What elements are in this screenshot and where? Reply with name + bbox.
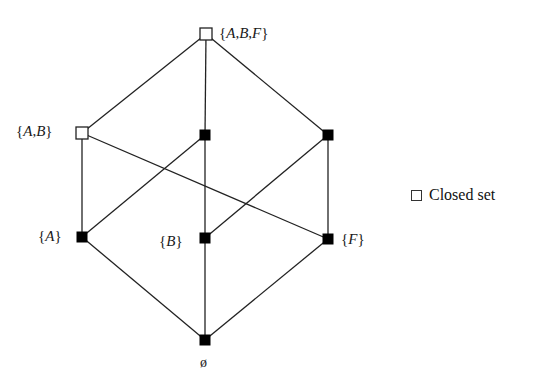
edge-abf-ab — [82, 34, 206, 133]
label-b: {B} — [159, 234, 183, 249]
label-empty: ø — [200, 356, 207, 370]
node-a — [77, 232, 88, 243]
node-f — [323, 234, 334, 245]
node-b — [200, 233, 211, 244]
open-square-icon — [411, 190, 422, 201]
edge-a-empty — [82, 237, 205, 340]
legend: Closed set — [411, 186, 495, 204]
node-ab-closed — [76, 127, 88, 139]
legend-label: Closed set — [429, 186, 495, 204]
node-bf — [323, 130, 334, 141]
edge-abf-af — [205, 34, 206, 135]
edges — [82, 34, 328, 340]
label-f: {F} — [341, 232, 365, 247]
edge-bf-b — [205, 135, 328, 238]
edge-f-empty — [205, 239, 328, 340]
edge-abf-bf — [206, 34, 328, 135]
node-abf-closed — [200, 28, 212, 40]
label-ab: {A,B} — [16, 124, 53, 139]
node-af — [200, 130, 211, 141]
label-abf: {A,B,F} — [219, 26, 268, 41]
label-a: {A} — [38, 229, 62, 244]
edge-af-a — [82, 135, 205, 237]
node-empty — [200, 335, 211, 346]
